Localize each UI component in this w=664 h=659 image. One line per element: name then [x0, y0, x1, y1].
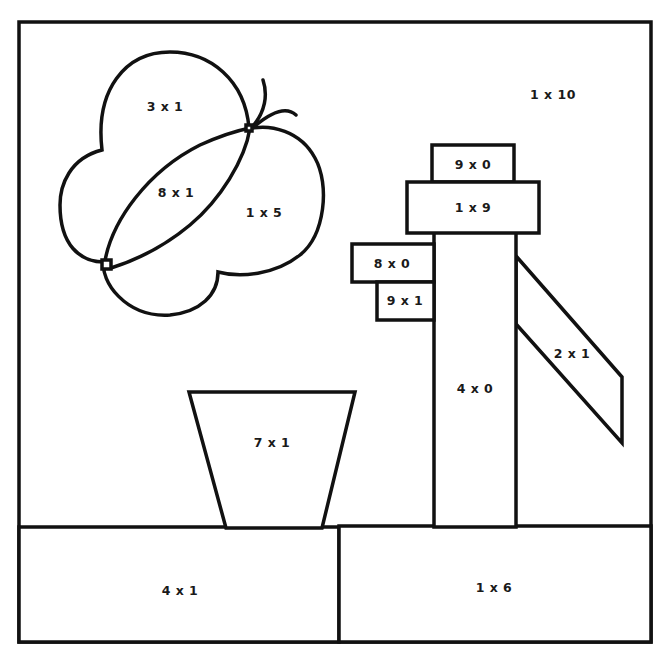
label-ground-right: 1 x 6	[476, 580, 513, 595]
label-cap-top: 9 x 0	[455, 157, 492, 172]
label-pump-body: 4 x 0	[457, 381, 494, 396]
label-upper-wing: 3 x 1	[147, 99, 184, 114]
label-spout-lower: 9 x 1	[387, 293, 424, 308]
butterfly-joint-top	[246, 125, 252, 131]
label-body: 8 x 1	[158, 185, 195, 200]
label-flower-pot: 7 x 1	[254, 435, 291, 450]
label-cap-bottom: 1 x 9	[455, 200, 492, 215]
pump-body-region[interactable]	[434, 232, 516, 527]
coloring-page: 1 x 10 3 x 1 8 x 1 1 x 5 9 x 0 1 x 9 8 x…	[0, 0, 664, 659]
label-sky: 1 x 10	[530, 87, 576, 102]
label-lower-wing: 1 x 5	[246, 205, 283, 220]
label-handle: 2 x 1	[554, 346, 591, 361]
label-spout-upper: 8 x 0	[374, 256, 411, 271]
label-ground-left: 4 x 1	[162, 583, 199, 598]
butterfly-joint-bottom	[102, 260, 111, 269]
